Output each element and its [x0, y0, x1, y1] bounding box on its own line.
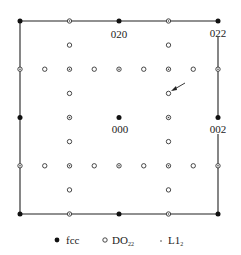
- l12-dot: [69, 213, 71, 215]
- l12-dot: [217, 68, 219, 70]
- do22-spot: [191, 67, 195, 71]
- l12-dot: [168, 213, 170, 215]
- label-000: 000: [112, 123, 129, 135]
- l12-dot: [118, 68, 120, 70]
- legend-fcc-label: fcc: [66, 234, 80, 246]
- l12-dot: [168, 68, 170, 70]
- do22-spot: [166, 139, 170, 143]
- do22-spot: [92, 164, 96, 168]
- do22-spot: [43, 164, 47, 168]
- spot-layer: [18, 19, 221, 217]
- do22-spot: [67, 139, 71, 143]
- do22-spot: [67, 43, 71, 47]
- fcc-spot: [18, 19, 23, 24]
- l12-dot: [168, 165, 170, 167]
- fcc-spot: [216, 115, 221, 120]
- diffraction-pattern-diagram: 020 022 000 002 fcc DO22 L12: [0, 0, 241, 255]
- fcc-spot: [216, 19, 221, 24]
- fcc-spot: [117, 19, 122, 24]
- do22-spot: [142, 164, 146, 168]
- do22-spot: [166, 91, 170, 95]
- label-022: 022: [210, 27, 227, 39]
- l12-dot: [69, 165, 71, 167]
- do22-spot: [43, 67, 47, 71]
- do22-spot: [191, 164, 195, 168]
- legend: fcc DO22 L12: [55, 234, 184, 247]
- do22-spot: [166, 43, 170, 47]
- fcc-spot: [18, 212, 23, 217]
- l12-dot: [168, 117, 170, 119]
- legend-l12-icon: [160, 240, 162, 242]
- label-020: 020: [111, 28, 128, 40]
- legend-do22-label: DO22: [112, 234, 134, 247]
- l12-dot: [168, 20, 170, 22]
- l12-dot: [19, 165, 21, 167]
- do22-spot: [67, 188, 71, 192]
- do22-spot: [142, 67, 146, 71]
- l12-dot: [69, 20, 71, 22]
- l12-dot: [69, 68, 71, 70]
- legend-fcc-icon: [55, 238, 60, 243]
- l12-dot: [217, 165, 219, 167]
- fcc-spot: [117, 212, 122, 217]
- fcc-spot: [18, 115, 23, 120]
- fcc-spot: [216, 212, 221, 217]
- l12-dot: [69, 117, 71, 119]
- label-002: 002: [210, 123, 227, 135]
- do22-spot: [67, 91, 71, 95]
- legend-do22-icon: [103, 238, 107, 242]
- legend-l12-label: L12: [168, 234, 183, 247]
- do22-spot: [166, 188, 170, 192]
- fcc-spot: [117, 115, 122, 120]
- do22-spot: [92, 67, 96, 71]
- arrow-icon: [171, 83, 185, 91]
- l12-dot: [19, 68, 21, 70]
- l12-dot: [118, 165, 120, 167]
